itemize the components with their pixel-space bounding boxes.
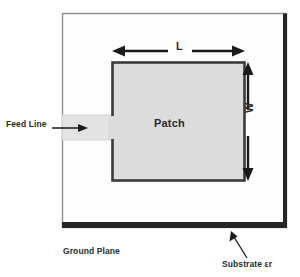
substrate-pointer-shaft: [234, 237, 247, 258]
length-label: L: [176, 41, 183, 52]
substrate-pointer: [230, 231, 248, 258]
width-label: W: [244, 103, 255, 113]
feed-patch-junction: [108, 116, 116, 139]
patch-label: Patch: [154, 118, 185, 129]
patch-antenna-diagram: Feed Line Patch L W Ground Plane Substra…: [0, 0, 300, 277]
substrate-right-edge: [283, 14, 287, 229]
ground-plane-label: Ground Plane: [63, 247, 120, 256]
ground-plane-band: [62, 222, 287, 228]
substrate-label: Substrate εr: [222, 260, 272, 269]
diagram-canvas: [0, 0, 300, 277]
feed-line-label: Feed Line: [6, 120, 47, 129]
